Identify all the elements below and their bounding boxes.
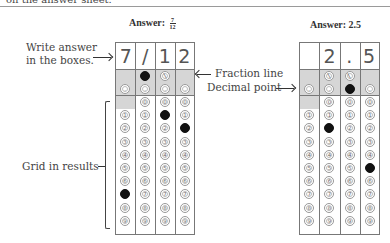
- digit-bubble-2[interactable]: 2: [140, 123, 150, 133]
- digit-bubble-4[interactable]: 4: [345, 150, 355, 160]
- fraction-bubble[interactable]: /: [160, 71, 170, 81]
- digit-bubble-7[interactable]: 7: [180, 189, 190, 199]
- digit-bubble-3[interactable]: 3: [180, 137, 190, 147]
- digit-bubble-8[interactable]: 8: [120, 203, 130, 213]
- digit-bubble-8[interactable]: 8: [140, 203, 150, 213]
- digit-bubble-1[interactable]: 1: [120, 110, 130, 120]
- digit-bubble-5[interactable]: 5: [324, 163, 334, 173]
- digit-bubble-7[interactable]: 7: [140, 189, 150, 199]
- digit-bubble-1[interactable]: 1: [160, 110, 170, 120]
- answer-write-box[interactable]: .: [340, 43, 360, 69]
- digit-bubble-8[interactable]: 8: [304, 203, 314, 213]
- digit-bubble-7[interactable]: 7: [324, 189, 334, 199]
- digit-bubble-7[interactable]: 7: [160, 189, 170, 199]
- digit-bubble-7[interactable]: 7: [120, 189, 130, 199]
- fraction-denominator: 12: [170, 24, 176, 30]
- digit-bubble-5[interactable]: 5: [120, 163, 130, 173]
- digit-bubble-9[interactable]: 9: [180, 216, 190, 226]
- digit-bubble-1[interactable]: 1: [365, 110, 375, 120]
- digit-bubble-5[interactable]: 5: [345, 163, 355, 173]
- digit-bubble-0[interactable]: 0: [140, 97, 150, 107]
- digit-bubble-0[interactable]: 0: [160, 97, 170, 107]
- fraction-bubble[interactable]: /: [324, 71, 334, 81]
- digit-bubble-2[interactable]: 2: [160, 123, 170, 133]
- digit-bubble-1[interactable]: 1: [180, 110, 190, 120]
- digit-bubble-6[interactable]: 6: [304, 176, 314, 186]
- decimal-bubble[interactable]: .: [304, 84, 314, 94]
- digit-bubble-5[interactable]: 5: [140, 163, 150, 173]
- answer-write-box[interactable]: 2: [175, 43, 195, 69]
- fraction-bubble[interactable]: /: [345, 71, 355, 81]
- answer-write-box[interactable]: [300, 43, 320, 69]
- digit-bubble-4[interactable]: 4: [160, 150, 170, 160]
- digit-bubble-9[interactable]: 9: [324, 216, 334, 226]
- digit-bubble-5[interactable]: 5: [365, 163, 375, 173]
- digit-bubble-2[interactable]: 2: [324, 123, 334, 133]
- digit-bubble-4[interactable]: 4: [324, 150, 334, 160]
- digit-bubble-6[interactable]: 6: [365, 176, 375, 186]
- digit-bubble-8[interactable]: 8: [345, 203, 355, 213]
- digit-bubble-5[interactable]: 5: [180, 163, 190, 173]
- answer-write-box[interactable]: 7: [116, 43, 136, 69]
- digit-bubble-9[interactable]: 9: [120, 216, 130, 226]
- digit-bubble-0[interactable]: 0: [180, 97, 190, 107]
- decimal-bubble[interactable]: .: [160, 84, 170, 94]
- decimal-bubble[interactable]: .: [140, 84, 150, 94]
- digit-bubble-2[interactable]: 2: [345, 123, 355, 133]
- digit-bubble-3[interactable]: 3: [140, 137, 150, 147]
- digit-bubble-3[interactable]: 3: [160, 137, 170, 147]
- digit-bubble-7[interactable]: 7: [345, 189, 355, 199]
- digit-bubble-7[interactable]: 7: [304, 189, 314, 199]
- digit-bubble-8[interactable]: 8: [160, 203, 170, 213]
- digit-bubble-0[interactable]: 0: [324, 97, 334, 107]
- fraction-bubble[interactable]: /: [140, 71, 150, 81]
- digit-bubble-6[interactable]: 6: [345, 176, 355, 186]
- digit-bubble-9[interactable]: 9: [365, 216, 375, 226]
- digit-bubble-2[interactable]: 2: [180, 123, 190, 133]
- digit-bubble-2[interactable]: 2: [120, 123, 130, 133]
- digit-bubble-4[interactable]: 4: [140, 150, 150, 160]
- answer-write-box[interactable]: 1: [155, 43, 175, 69]
- digit-bubble-4[interactable]: 4: [180, 150, 190, 160]
- digit-bubble-5[interactable]: 5: [160, 163, 170, 173]
- digit-bubble-2[interactable]: 2: [304, 123, 314, 133]
- grid-column-divider: [360, 43, 361, 234]
- answer-write-box[interactable]: 2: [320, 43, 340, 69]
- digit-bubble-3[interactable]: 3: [324, 137, 334, 147]
- digit-bubble-1[interactable]: 1: [324, 110, 334, 120]
- answer-label: Answer:: [129, 17, 165, 28]
- digit-bubble-2[interactable]: 2: [365, 123, 375, 133]
- digit-bubble-1[interactable]: 1: [304, 110, 314, 120]
- digit-bubble-9[interactable]: 9: [140, 216, 150, 226]
- digit-bubble-1[interactable]: 1: [140, 110, 150, 120]
- digit-bubble-4[interactable]: 4: [120, 150, 130, 160]
- decimal-bubble[interactable]: .: [120, 84, 130, 94]
- answer-write-box[interactable]: 5: [359, 43, 379, 69]
- digit-bubble-4[interactable]: 4: [304, 150, 314, 160]
- digit-bubble-0[interactable]: 0: [365, 97, 375, 107]
- digit-bubble-3[interactable]: 3: [345, 137, 355, 147]
- decimal-bubble[interactable]: .: [345, 84, 355, 94]
- digit-bubble-6[interactable]: 6: [120, 176, 130, 186]
- digit-bubble-6[interactable]: 6: [180, 176, 190, 186]
- digit-bubble-9[interactable]: 9: [304, 216, 314, 226]
- answer-write-box[interactable]: /: [136, 43, 156, 69]
- digit-bubble-8[interactable]: 8: [324, 203, 334, 213]
- digit-bubble-3[interactable]: 3: [304, 137, 314, 147]
- digit-bubble-7[interactable]: 7: [365, 189, 375, 199]
- decimal-bubble[interactable]: .: [180, 84, 190, 94]
- digit-bubble-3[interactable]: 3: [120, 137, 130, 147]
- digit-bubble-8[interactable]: 8: [365, 203, 375, 213]
- digit-bubble-6[interactable]: 6: [160, 176, 170, 186]
- digit-bubble-3[interactable]: 3: [365, 137, 375, 147]
- digit-bubble-6[interactable]: 6: [140, 176, 150, 186]
- decimal-bubble[interactable]: .: [365, 84, 375, 94]
- digit-bubble-6[interactable]: 6: [324, 176, 334, 186]
- digit-bubble-5[interactable]: 5: [304, 163, 314, 173]
- digit-bubble-4[interactable]: 4: [365, 150, 375, 160]
- digit-bubble-9[interactable]: 9: [160, 216, 170, 226]
- digit-bubble-0[interactable]: 0: [345, 97, 355, 107]
- digit-bubble-8[interactable]: 8: [180, 203, 190, 213]
- digit-bubble-1[interactable]: 1: [345, 110, 355, 120]
- digit-bubble-9[interactable]: 9: [345, 216, 355, 226]
